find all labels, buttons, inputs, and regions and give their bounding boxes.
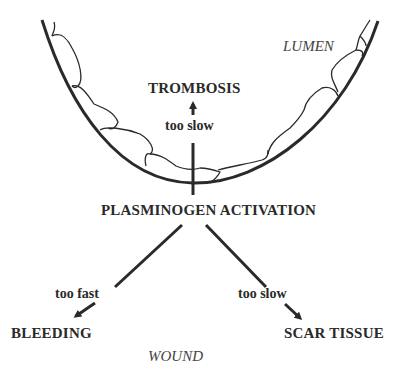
arrow-to-bleeding <box>76 303 95 316</box>
lumen-label: LUMEN <box>283 38 334 55</box>
bleeding-label: BLEEDING <box>11 325 92 342</box>
arrow-to-scar-upper <box>206 225 266 287</box>
thrombosis-condition: too slow <box>165 118 214 134</box>
bleeding-condition: too fast <box>55 286 99 302</box>
scar-condition: too slow <box>238 286 287 302</box>
center-node-label: PLASMINOGEN ACTIVATION <box>101 202 316 219</box>
diagram-canvas <box>0 0 410 378</box>
arrow-to-bleeding-upper <box>115 225 182 287</box>
arrow-to-scar <box>285 304 300 318</box>
thrombosis-label: TROMBOSIS <box>148 80 241 97</box>
scar-label: SCAR TISSUE <box>284 325 384 342</box>
wound-label: WOUND <box>148 348 203 365</box>
